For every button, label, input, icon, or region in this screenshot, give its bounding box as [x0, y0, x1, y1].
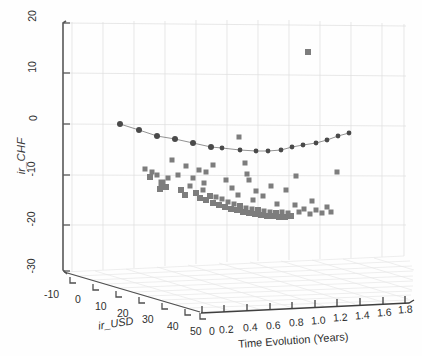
scatter-point-marker: [204, 170, 209, 175]
scatter-point-marker: [284, 188, 289, 193]
curve-point-marker: [154, 133, 160, 139]
scatter-point-marker: [191, 176, 196, 181]
scatter-point-marker: [302, 207, 307, 212]
scatter-point-marker: [310, 199, 315, 204]
curve-point-marker: [172, 136, 178, 142]
curve-point-marker: [136, 127, 142, 133]
scatter-point-marker: [216, 202, 222, 208]
y-tick-label-neg30: -30: [25, 258, 37, 273]
curve-point-marker: [279, 148, 284, 153]
scatter-point-marker: [150, 170, 155, 175]
scatter-point-marker: [280, 210, 285, 215]
x-tick-label-40: 40: [167, 320, 179, 332]
curve-point-marker: [208, 144, 214, 150]
curve-point-marker: [325, 138, 330, 143]
z-tick-label-0-4: 0.4: [243, 321, 258, 334]
scatter-point-marker: [226, 200, 231, 205]
scatter-point-marker: [245, 172, 250, 177]
scatter-point-marker: [262, 209, 267, 214]
scatter-point-marker: [251, 198, 256, 203]
y-tick-label-neg20: -20: [25, 211, 37, 226]
scatter-point-marker: [188, 184, 193, 189]
curve-point-marker: [220, 146, 225, 151]
scatter-point-marker: [184, 164, 189, 169]
x-tick-label-50: 50: [190, 325, 202, 337]
curve-point-marker: [347, 131, 352, 136]
z-tick-label-1-2: 1.2: [333, 311, 348, 324]
curve-point-marker: [190, 140, 196, 146]
scatter-point-marker: [166, 176, 171, 181]
floor-grid: [64, 256, 414, 312]
scatter-plot-3d: [0, 0, 422, 356]
scatter-point-marker: [250, 207, 255, 212]
scatter-point-marker: [232, 202, 237, 207]
z-tick-label-1-0: 1.0: [311, 314, 326, 327]
z-tick-label-0: 0: [209, 325, 215, 337]
scatter-point-marker: [230, 186, 235, 191]
scatter-point-marker: [236, 193, 241, 198]
scatter-point-marker: [305, 49, 311, 55]
scatter-point-marker: [269, 184, 274, 189]
scatter-point-marker: [275, 202, 280, 207]
x-tick-label-0: 0: [75, 293, 81, 305]
scatter-point-marker: [237, 203, 243, 209]
curve-point-marker: [266, 149, 271, 154]
scatter-point-marker: [329, 210, 334, 215]
z-tick-label-0-2: 0.2: [219, 323, 234, 336]
x-tick-label-30: 30: [142, 313, 154, 325]
scatter-point-marker: [294, 174, 299, 179]
curve-point-marker: [301, 143, 306, 148]
curve-point-marker: [254, 149, 259, 154]
scatter-point-marker: [220, 197, 225, 202]
scatter-point-marker: [176, 173, 181, 178]
z-tick-label-1-4: 1.4: [355, 309, 370, 322]
z-tick-label-0-8: 0.8: [289, 316, 304, 329]
z-tick-label-1-6: 1.6: [377, 306, 392, 319]
scatter-point-marker: [276, 214, 282, 220]
back-wall-grid: [64, 20, 406, 272]
x-tick-label-neg10: -10: [44, 288, 59, 300]
scatter-point-marker: [210, 200, 216, 206]
z-tick-label-1-8: 1.8: [398, 303, 413, 316]
curve-point-marker: [314, 141, 319, 146]
scatter-point-marker: [222, 204, 228, 210]
scatter-point-marker: [261, 194, 266, 199]
scatter-point-marker: [293, 203, 298, 208]
scatter-point-marker: [157, 186, 163, 192]
scatter-point-marker: [201, 188, 206, 193]
y-axis-spine: [63, 21, 67, 274]
y-tick-label-0: 0: [27, 115, 39, 121]
scatter-point-marker: [237, 135, 242, 140]
scatter-point-marker: [182, 192, 188, 198]
mean-curve-line: [120, 124, 349, 151]
figure-canvas: ir_CHF 20 10 0 -10 -20 -30 -10 0 10 20 3…: [0, 0, 422, 356]
z-tick-label-0-6: 0.6: [266, 319, 281, 332]
y-tick-label-neg10: -10: [25, 161, 37, 176]
y-axis-title: ir_CHF: [15, 126, 27, 186]
curve-point-marker: [238, 148, 243, 153]
y-axis-ticks: [63, 23, 70, 271]
scatter-point-marker: [320, 211, 325, 216]
scatter-point-marker: [288, 213, 294, 219]
mean-curve-series: [117, 121, 351, 153]
scatter-point-marker: [325, 205, 330, 210]
scatter-point-marker: [197, 168, 202, 173]
scatter-point-marker: [143, 167, 148, 172]
y-tick-label-20: 20: [26, 10, 38, 22]
scatter-point-marker: [243, 161, 248, 166]
scatter-point-marker: [197, 195, 203, 201]
curve-point-marker: [290, 145, 295, 150]
scatter-point-marker: [170, 158, 175, 163]
scatter-point-marker: [335, 170, 340, 175]
curve-point-marker: [336, 134, 341, 139]
scatter-point-marker: [228, 206, 234, 212]
scatter-point-marker: [214, 195, 219, 200]
scatter-point-marker: [297, 210, 302, 215]
x-tick-label-10: 10: [95, 300, 107, 312]
curve-point-marker: [117, 121, 123, 127]
scatter-point-marker: [314, 208, 319, 213]
scatter-point-marker: [224, 178, 229, 183]
scatter-point-marker: [254, 189, 259, 194]
scatter-point-marker: [244, 206, 249, 211]
scatter-point-marker: [308, 212, 313, 217]
